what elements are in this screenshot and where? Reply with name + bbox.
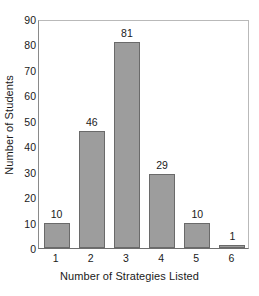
y-axis-tick-labels: 0102030405060708090 xyxy=(16,0,36,296)
y-axis-tick-label: 0 xyxy=(16,243,36,255)
y-axis-title-text: Number of Students xyxy=(3,75,15,175)
bar-slot: 10 xyxy=(180,21,215,248)
x-axis-title: Number of Strategies Listed xyxy=(0,270,259,282)
y-axis-tick-label: 90 xyxy=(16,14,36,26)
x-axis-tick-label: 2 xyxy=(88,252,94,264)
x-axis-tick-label: 1 xyxy=(53,252,59,264)
bar-slot: 10 xyxy=(39,21,74,248)
bar[interactable] xyxy=(114,42,140,248)
bar-slot: 29 xyxy=(145,21,180,248)
y-axis-tick-label: 20 xyxy=(16,192,36,204)
bar-slot: 81 xyxy=(109,21,144,248)
y-axis-tick-label: 80 xyxy=(16,39,36,51)
x-axis-tick-label: 4 xyxy=(158,252,164,264)
x-axis-tick-label: 6 xyxy=(228,252,234,264)
bar-value-label: 46 xyxy=(86,116,98,128)
bar-value-label: 10 xyxy=(51,208,63,220)
bar-value-label: 81 xyxy=(121,27,133,39)
bar-value-label: 1 xyxy=(229,230,235,242)
bar-series: 10468129101 xyxy=(39,21,248,248)
bar[interactable] xyxy=(44,223,70,248)
bar-slot: 1 xyxy=(215,21,250,248)
x-axis-tick-label: 5 xyxy=(193,252,199,264)
x-axis-tick-labels: 123456 xyxy=(38,252,249,270)
y-axis-tick-label: 50 xyxy=(16,116,36,128)
y-axis-tick-label: 30 xyxy=(16,167,36,179)
x-axis-tick-label: 3 xyxy=(123,252,129,264)
bar-slot: 46 xyxy=(74,21,109,248)
bar[interactable] xyxy=(184,223,210,248)
y-axis-tick-label: 70 xyxy=(16,65,36,77)
bar[interactable] xyxy=(219,245,245,248)
plot-area: 10468129101 xyxy=(38,20,249,249)
bar[interactable] xyxy=(79,131,105,248)
y-axis-tick-label: 60 xyxy=(16,90,36,102)
y-axis-tick-label: 40 xyxy=(16,141,36,153)
bar-value-label: 29 xyxy=(156,159,168,171)
bar[interactable] xyxy=(149,174,175,248)
bar-chart-figure: Number of Students 0102030405060708090 1… xyxy=(0,0,259,296)
y-axis-tick-label: 10 xyxy=(16,218,36,230)
bar-value-label: 10 xyxy=(191,208,203,220)
